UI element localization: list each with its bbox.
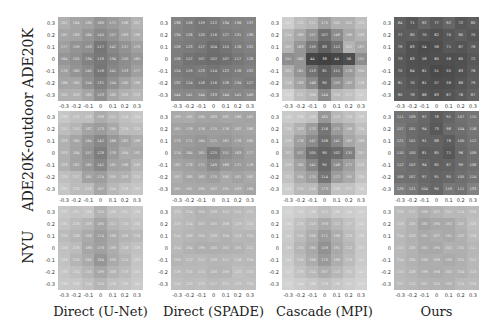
- heatmap-cell: 120: [195, 29, 207, 41]
- heatmap-cell: 165: [131, 53, 143, 65]
- heatmap-cell: 199: [418, 206, 430, 218]
- heatmap-cell: 63: [406, 53, 418, 65]
- y-tick-label: 0.2: [373, 126, 391, 132]
- heatmap-cell: 219: [171, 266, 183, 278]
- heatmap-cell: 187: [58, 29, 70, 41]
- heatmap-cell: 190: [306, 242, 318, 254]
- heatmap-cell: 198: [343, 123, 355, 135]
- heatmap-cell: 205: [207, 218, 219, 230]
- heatmap-cell: 124: [183, 77, 195, 89]
- heatmap-cell: 107: [406, 171, 418, 183]
- heatmap-cell: 198: [131, 135, 143, 147]
- heatmap-cell: 63: [430, 89, 442, 101]
- heatmap-cell: 136: [232, 17, 244, 29]
- y-tick-label: -0.3: [373, 92, 391, 98]
- heatmap-cell: 220: [183, 278, 195, 290]
- heatmap-cell: 79: [394, 41, 406, 53]
- heatmap-cell: 190: [220, 171, 232, 183]
- heatmap-cell: 171: [107, 17, 119, 29]
- heatmap-cell: 219: [294, 230, 306, 242]
- heatmap-cell: 141: [306, 159, 318, 171]
- heatmap-cell: 121: [406, 183, 418, 195]
- heatmap-cell: 136: [171, 17, 183, 29]
- heatmap-cell: 112: [467, 135, 479, 147]
- heatmap-cell: 253: [282, 89, 294, 101]
- heatmap-cell: 220: [119, 218, 131, 230]
- heatmap-cell: 217: [406, 206, 418, 218]
- heatmap-cell: 202: [343, 17, 355, 29]
- heatmap-cell: 186: [244, 123, 256, 135]
- heatmap-cell: 177: [58, 41, 70, 53]
- heatmap-cell: 215: [294, 183, 306, 195]
- heatmap-cell: 60: [430, 53, 442, 65]
- heatmap-cell: 154: [82, 77, 94, 89]
- heatmap-cell: 165: [318, 111, 330, 123]
- heatmap-cell: 133: [207, 89, 219, 101]
- heatmap-cell: 179: [183, 123, 195, 135]
- heatmap-cell: 184: [70, 17, 82, 29]
- heatmap-cell: 127: [220, 29, 232, 41]
- heatmap-cell: 193: [171, 111, 183, 123]
- heatmap-cell: 166: [107, 135, 119, 147]
- heatmap-cell: 235: [131, 266, 143, 278]
- heatmap-cell: 127: [244, 77, 256, 89]
- heatmap-cell: 159: [70, 41, 82, 53]
- heatmap-cell: 211: [107, 111, 119, 123]
- y-tick-label: -0.2: [37, 174, 55, 180]
- heatmap-cell: 186: [58, 77, 70, 89]
- heatmap-cell: 223: [232, 278, 244, 290]
- heatmap-cell: 237: [58, 206, 70, 218]
- heatmap-cell: 219: [119, 123, 131, 135]
- heatmap-cell: 160: [294, 53, 306, 65]
- heatmap-cell: 190: [107, 123, 119, 135]
- heatmap-cell: 99: [455, 159, 467, 171]
- heatmap-cell: 191: [171, 183, 183, 195]
- heatmap-cell: 236: [58, 111, 70, 123]
- heatmap-cell: 73: [394, 53, 406, 65]
- heatmap-cell: 182: [119, 135, 131, 147]
- heatmap-panel: 2472222111752022022252141891571071491882…: [282, 17, 367, 101]
- y-tick-label: 0.1: [261, 138, 279, 144]
- heatmap-cell: 171: [232, 159, 244, 171]
- y-tick-label: 0: [150, 56, 168, 62]
- heatmap-cell: 173: [306, 123, 318, 135]
- heatmap-cell: 182: [171, 159, 183, 171]
- heatmap-cell: 219: [394, 218, 406, 230]
- heatmap-cell: 81: [418, 147, 430, 159]
- heatmap-cell: 220: [343, 230, 355, 242]
- heatmap-cell: 112: [331, 41, 343, 53]
- heatmap-cell: 116: [467, 123, 479, 135]
- heatmap-cell: 180: [82, 17, 94, 29]
- heatmap-cell: 220: [131, 123, 143, 135]
- heatmap-cell: 209: [183, 230, 195, 242]
- y-tick-label: -0.1: [261, 68, 279, 74]
- heatmap-cell: 109: [467, 147, 479, 159]
- heatmap-panel: 1361261191221341361371341261201161271311…: [171, 17, 256, 101]
- heatmap-cell: 212: [183, 254, 195, 266]
- heatmap-cell: 123: [195, 65, 207, 77]
- heatmap-cell: 217: [394, 278, 406, 290]
- heatmap-cell: 118: [94, 65, 106, 77]
- heatmap-cell: 227: [343, 218, 355, 230]
- heatmap-cell: 202: [220, 242, 232, 254]
- heatmap-cell: 230: [131, 218, 143, 230]
- heatmap-cell: 117: [394, 123, 406, 135]
- heatmap-cell: 44: [306, 53, 318, 65]
- heatmap-cell: 186: [244, 183, 256, 195]
- heatmap-cell: 214: [394, 254, 406, 266]
- heatmap-cell: 178: [183, 159, 195, 171]
- heatmap-cell: 175: [207, 123, 219, 135]
- heatmap-panel: 1931951841831871861821811791761751761821…: [171, 111, 256, 195]
- y-tick-label: -0.2: [261, 174, 279, 180]
- heatmap-cell: 208: [406, 266, 418, 278]
- heatmap-cell: 75: [394, 65, 406, 77]
- x-tick-label: 0.3: [130, 197, 144, 203]
- heatmap-cell: 83: [318, 41, 330, 53]
- heatmap-cell: 164: [82, 29, 94, 41]
- heatmap-cell: 190: [430, 218, 442, 230]
- heatmap-cell: 192: [443, 218, 455, 230]
- heatmap-cell: 186: [119, 159, 131, 171]
- heatmap-cell: 191: [220, 183, 232, 195]
- column-label: Direct (SPADE): [154, 304, 274, 319]
- heatmap-cell: 128: [171, 41, 183, 53]
